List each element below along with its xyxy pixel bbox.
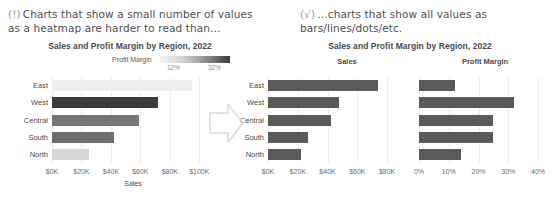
annotation-left-text: Charts that show a small number of value…	[8, 8, 253, 34]
annotation-right-text: …charts that show all values as bars/lin…	[300, 8, 487, 34]
gridline	[538, 77, 539, 163]
x-tick: 40%	[516, 168, 555, 175]
bar-central[interactable]	[419, 115, 493, 126]
category-label-north: North	[4, 150, 48, 159]
bar-west[interactable]	[268, 97, 339, 108]
category-label-north: North	[220, 150, 264, 159]
bar-north[interactable]	[268, 149, 301, 160]
bar-south[interactable]	[268, 132, 308, 143]
bar-south[interactable]	[419, 132, 493, 143]
bar-north[interactable]	[52, 149, 89, 160]
bar-north[interactable]	[419, 149, 461, 160]
bar-west[interactable]	[419, 97, 514, 108]
category-label-central: Central	[4, 116, 48, 125]
subchart-title-profit-margin: Profit Margin	[425, 57, 545, 66]
bar-west[interactable]	[52, 97, 158, 108]
subchart-title-sales: Sales	[282, 57, 412, 66]
gridline	[508, 77, 509, 163]
legend-title: Profit Margin	[112, 56, 152, 63]
bar-central[interactable]	[52, 115, 139, 126]
gridline	[199, 77, 200, 163]
gridline	[387, 77, 388, 163]
x-tick: $100K	[177, 168, 221, 175]
check-icon: (√)	[300, 8, 315, 20]
annotation-right: (√)…charts that show all values as bars/…	[300, 8, 545, 35]
bar-east[interactable]	[268, 80, 378, 91]
warning-icon: (!)	[8, 8, 21, 20]
right-chart-title: Sales and Profit Margin by Region, 2022	[270, 41, 550, 51]
legend-tick-low: 12%	[167, 64, 180, 71]
heatmap-bar-chart: EastWestCentralSouthNorth$0K$20K$40K$60K…	[52, 77, 214, 163]
bar-south[interactable]	[52, 132, 114, 143]
legend-color-ramp	[160, 56, 230, 63]
annotation-left: (!)Charts that show a small number of va…	[8, 8, 263, 35]
category-label-south: South	[4, 133, 48, 142]
legend-tick-high: 32%	[208, 64, 221, 71]
category-label-west: West	[4, 98, 48, 107]
bar-east[interactable]	[419, 80, 455, 91]
bar-central[interactable]	[268, 115, 331, 126]
category-label-east: East	[4, 81, 48, 90]
bar-east[interactable]	[52, 80, 192, 91]
figure-canvas: (!)Charts that show a small number of va…	[0, 0, 555, 204]
arrow-right-icon	[206, 100, 246, 146]
sales-bar-chart: EastWestCentralSouthNorth$0K$20K$40K$60K…	[268, 77, 399, 163]
x-axis-title: Sales	[52, 180, 214, 187]
profit-margin-bar-chart: EastWestCentralSouthNorth0%10%20%30%40%	[419, 77, 550, 163]
category-label-east: East	[220, 81, 264, 90]
left-chart-title: Sales and Profit Margin by Region, 2022	[10, 41, 250, 51]
